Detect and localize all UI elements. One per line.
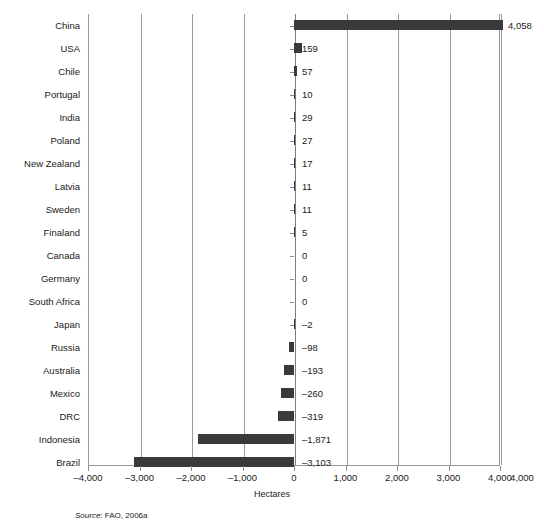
category-label: DRC <box>0 405 80 428</box>
bar <box>294 319 295 329</box>
source-text: FAO, 2006a <box>105 511 148 520</box>
bar-value-label: –98 <box>302 336 318 359</box>
bar <box>294 43 302 53</box>
x-axis-tick-label: –2,000 <box>176 472 205 483</box>
bar <box>278 411 294 421</box>
bar <box>198 434 294 444</box>
bar-value-label: 11 <box>302 198 312 221</box>
x-axis-tick <box>397 466 398 471</box>
category-label: Germany <box>0 267 80 290</box>
chart-row: New Zealand17 <box>0 152 544 175</box>
x-axis-tick <box>191 466 192 471</box>
bar <box>284 365 294 375</box>
x-axis-title: Hectares <box>0 489 544 499</box>
category-label: Japan <box>0 313 80 336</box>
chart-rows: China4,058USA159Chile57Portugal10India29… <box>0 14 544 466</box>
chart-figure: China4,058USA159Chile57Portugal10India29… <box>0 0 544 532</box>
bar <box>294 66 297 76</box>
chart-row: Mexico–260 <box>0 382 544 405</box>
x-axis-tick <box>500 466 501 471</box>
x-axis-tick-labels: –4,000–3,000–2,000–1,00001,0002,0003,000… <box>0 472 544 486</box>
category-label: Indonesia <box>0 428 80 451</box>
chart-row: Poland27 <box>0 129 544 152</box>
bar-value-label: 4,058 <box>508 14 532 37</box>
chart-row: South Africa0 <box>0 290 544 313</box>
bar <box>294 112 295 122</box>
category-label: Sweden <box>0 198 80 221</box>
category-label: Chile <box>0 60 80 83</box>
category-label: Poland <box>0 129 80 152</box>
bar-value-label: 57 <box>302 60 313 83</box>
chart-row: Japan–2 <box>0 313 544 336</box>
source-label: Source <box>75 511 100 520</box>
category-label: New Zealand <box>0 152 80 175</box>
bar <box>294 227 295 237</box>
bar <box>289 342 294 352</box>
source-note: Source: FAO, 2006a <box>75 511 148 520</box>
bar <box>281 388 294 398</box>
chart-row: USA159 <box>0 37 544 60</box>
chart-row: Sweden11 <box>0 198 544 221</box>
bar-value-label: 5 <box>302 221 307 244</box>
chart-row: Portugal10 <box>0 83 544 106</box>
chart-row: Finaland5 <box>0 221 544 244</box>
x-axis-tick <box>449 466 450 471</box>
chart-row: DRC–319 <box>0 405 544 428</box>
bar-value-label: –1,871 <box>302 428 331 451</box>
category-label: South Africa <box>0 290 80 313</box>
chart-row: India29 <box>0 106 544 129</box>
x-axis-tick-label: 4,000 <box>488 472 512 483</box>
bar <box>294 89 295 99</box>
chart-row: Canada0 <box>0 244 544 267</box>
bar-value-label: 0 <box>302 290 307 313</box>
x-axis-tick <box>346 466 347 471</box>
category-tick <box>290 302 294 303</box>
bar <box>294 181 295 191</box>
bar-value-label: –319 <box>302 405 323 428</box>
bar-value-label: 11 <box>302 175 312 198</box>
bar-value-label: –193 <box>302 359 323 382</box>
chart-row: Latvia11 <box>0 175 544 198</box>
chart-row: Indonesia–1,871 <box>0 428 544 451</box>
chart-row: Australia–193 <box>0 359 544 382</box>
bar-value-label: 27 <box>302 129 313 152</box>
bar <box>294 20 503 30</box>
category-label: USA <box>0 37 80 60</box>
category-label: Finaland <box>0 221 80 244</box>
category-tick <box>290 279 294 280</box>
x-axis-tick <box>243 466 244 471</box>
category-label: Russia <box>0 336 80 359</box>
category-label: Canada <box>0 244 80 267</box>
bar-value-label: 0 <box>302 244 307 267</box>
x-axis-tick <box>294 466 295 471</box>
x-axis-tick <box>140 466 141 471</box>
x-axis-tick-label: 1,000 <box>334 472 358 483</box>
x-axis-tick-label: –1,000 <box>228 472 257 483</box>
x-axis-tick-label: 0 <box>291 472 296 483</box>
x-axis-tick-label: 2,000 <box>385 472 409 483</box>
chart-row: Chile57 <box>0 60 544 83</box>
x-axis-tick <box>88 466 89 471</box>
bar <box>294 204 295 214</box>
x-axis-tick-label: 3,000 <box>437 472 461 483</box>
category-label: India <box>0 106 80 129</box>
x-axis-tick-label: –3,000 <box>125 472 154 483</box>
category-label: China <box>0 14 80 37</box>
bar <box>294 158 295 168</box>
category-label: Latvia <box>0 175 80 198</box>
chart-row: Germany0 <box>0 267 544 290</box>
bar-value-label: 17 <box>302 152 313 175</box>
bar-value-label: 29 <box>302 106 313 129</box>
bar <box>294 135 295 145</box>
chart-row: Russia–98 <box>0 336 544 359</box>
x-axis-tick-label: –4,000 <box>73 472 102 483</box>
bar-value-label: 10 <box>302 83 313 106</box>
bar-value-label: 0 <box>302 267 307 290</box>
bar-value-label: –2 <box>302 313 313 336</box>
category-label: Australia <box>0 359 80 382</box>
chart-row: China4,058 <box>0 14 544 37</box>
category-label: Mexico <box>0 382 80 405</box>
category-label: Portugal <box>0 83 80 106</box>
x-axis-tick-label: 4,000 <box>510 472 534 483</box>
category-tick <box>290 256 294 257</box>
